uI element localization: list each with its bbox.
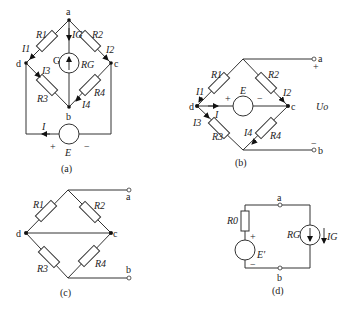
source-plus: + bbox=[225, 93, 231, 104]
panel-d: a b R0 + − E' RG IG (d) bbox=[226, 192, 338, 297]
node-label-b: b bbox=[66, 111, 71, 122]
node-label-a: a bbox=[277, 192, 282, 203]
label-g: G bbox=[53, 55, 60, 66]
node-label-c: c bbox=[113, 228, 118, 239]
label-rg: RG bbox=[80, 59, 94, 70]
caption-a: (a) bbox=[61, 163, 72, 175]
node-label-a: a bbox=[318, 53, 323, 64]
label-r4: R4 bbox=[93, 87, 105, 98]
label-i1: I1 bbox=[195, 86, 204, 97]
caption-d: (d) bbox=[272, 285, 284, 297]
node-label-b: b bbox=[126, 264, 131, 275]
minus-sign: − bbox=[84, 141, 90, 152]
label-r2: R2 bbox=[91, 29, 103, 40]
plus-sign: + bbox=[313, 61, 319, 72]
source-minus: − bbox=[257, 93, 263, 104]
caption-b: (b) bbox=[235, 157, 247, 169]
label-r4: R4 bbox=[94, 258, 106, 269]
label-e: E bbox=[239, 85, 246, 96]
node-label-c: c bbox=[291, 101, 296, 112]
label-r0: R0 bbox=[226, 215, 238, 226]
voltage-source-icon bbox=[235, 240, 255, 260]
voltage-source-icon bbox=[59, 124, 79, 144]
caption-c: (c) bbox=[60, 287, 71, 299]
label-r2: R2 bbox=[267, 69, 279, 80]
label-e: E bbox=[64, 147, 71, 158]
label-i4: I4 bbox=[81, 99, 90, 110]
voltage-source-icon bbox=[233, 96, 253, 116]
panel-a: a d c b R1 R2 R3 R4 G RG IG I1 I2 I3 I4 … bbox=[16, 6, 119, 175]
node-label-d: d bbox=[189, 101, 194, 112]
label-r1: R1 bbox=[35, 29, 47, 40]
node-label-c: c bbox=[114, 58, 119, 69]
panel-b: a + b − Uo d c R1 R2 R3 R4 I1 I2 I3 I4 I… bbox=[189, 53, 328, 169]
node-label-d: d bbox=[16, 228, 21, 239]
minus-sign: − bbox=[311, 138, 317, 149]
label-i: I bbox=[41, 121, 46, 132]
resistor-r0 bbox=[241, 211, 249, 231]
label-rg: RG bbox=[286, 229, 300, 240]
panel-c: a b d c R1 R2 R3 R4 (c) bbox=[16, 188, 131, 299]
circuit-diagrams: a d c b R1 R2 R3 R4 G RG IG I1 I2 I3 I4 … bbox=[0, 0, 347, 311]
plus-sign: + bbox=[250, 231, 256, 242]
label-e-prime: E' bbox=[256, 249, 266, 260]
node-label-a: a bbox=[126, 191, 131, 202]
label-r3: R3 bbox=[211, 131, 223, 142]
label-i1: I1 bbox=[21, 43, 30, 54]
label-uo: Uo bbox=[316, 101, 328, 112]
label-i2: I2 bbox=[105, 44, 114, 55]
label-i3: I3 bbox=[41, 65, 50, 76]
node-label-b: b bbox=[277, 272, 282, 283]
minus-sign: − bbox=[250, 259, 256, 270]
label-r1: R1 bbox=[210, 69, 222, 80]
label-r2: R2 bbox=[93, 200, 105, 211]
node-label-b: b bbox=[318, 145, 323, 156]
label-r3: R3 bbox=[36, 263, 48, 274]
label-i2: I2 bbox=[282, 87, 291, 98]
label-i4: I4 bbox=[243, 127, 252, 138]
node-label-a: a bbox=[66, 6, 71, 17]
label-r3: R3 bbox=[36, 93, 48, 104]
label-ig: IG bbox=[326, 231, 338, 242]
label-r1: R1 bbox=[32, 199, 44, 210]
label-ig: IG bbox=[71, 29, 83, 40]
label-i: I bbox=[214, 109, 219, 120]
node-label-d: d bbox=[16, 58, 21, 69]
label-i3: I3 bbox=[192, 117, 201, 128]
label-r4: R4 bbox=[269, 130, 281, 141]
plus-sign: + bbox=[50, 141, 56, 152]
